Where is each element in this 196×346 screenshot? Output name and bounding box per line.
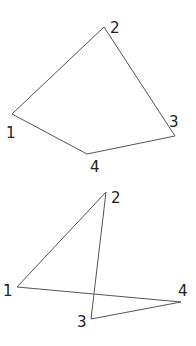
vertex-label-1: 1 — [3, 282, 13, 300]
edge-3-4 — [91, 302, 181, 319]
edge-4-1 — [17, 287, 181, 302]
edge-4-1 — [12, 114, 87, 154]
edge-1-2 — [12, 27, 104, 114]
quadrilateral-diagrams: 1234 1234 — [0, 0, 196, 346]
vertex-label-1: 1 — [6, 124, 16, 142]
simple-quadrilateral: 1234 — [6, 19, 179, 176]
self-intersecting-quadrilateral: 1234 — [3, 189, 188, 331]
vertex-label-3: 3 — [169, 113, 179, 131]
vertex-label-4: 4 — [90, 158, 100, 176]
vertex-label-2: 2 — [111, 189, 121, 207]
vertex-label-4: 4 — [178, 282, 188, 300]
edge-2-3 — [91, 192, 106, 319]
edge-2-3 — [104, 27, 175, 136]
edge-1-2 — [17, 192, 106, 287]
edge-3-4 — [87, 136, 175, 154]
vertex-label-3: 3 — [77, 313, 87, 331]
vertex-label-2: 2 — [110, 19, 120, 37]
